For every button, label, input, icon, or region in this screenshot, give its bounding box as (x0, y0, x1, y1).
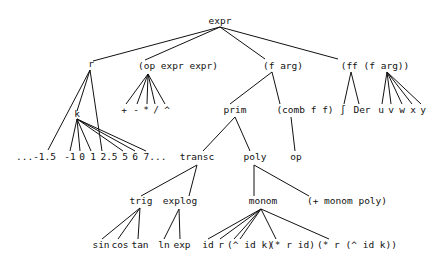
node-cos: cos (111, 239, 128, 250)
node-monom: monom (249, 195, 278, 206)
node-times: * (143, 104, 149, 115)
node-plus: + (121, 104, 127, 115)
edge (77, 119, 135, 151)
edge (387, 72, 421, 104)
node-der: Der (353, 104, 370, 115)
edge (234, 209, 261, 239)
node-prim: prim (224, 104, 247, 115)
node-r: r (88, 58, 94, 69)
node-expr: expr (209, 15, 232, 26)
tree-edges (48, 27, 421, 239)
edge (147, 74, 148, 104)
node-tan: tan (131, 239, 148, 250)
node-divide: / (153, 104, 159, 115)
node-id: id (202, 239, 213, 250)
node-plus-monom-poly: (+ monom poly) (307, 195, 387, 206)
edge (272, 72, 280, 104)
edge (148, 74, 155, 104)
edge (220, 27, 265, 59)
edge (137, 74, 148, 104)
node-num-7: 7... (144, 151, 167, 162)
node-integral: ∫ (340, 104, 346, 115)
edge (261, 209, 276, 239)
edge (351, 72, 359, 104)
node-trig: trig (130, 195, 153, 206)
node-explog: explog (163, 195, 197, 206)
node-ln: ln (158, 239, 169, 250)
edge (141, 165, 197, 196)
edge (126, 74, 148, 104)
edge (208, 209, 261, 239)
node-comb-f-f: (comb f f) (276, 104, 333, 115)
node-y: y (420, 104, 426, 115)
node-sin: sin (92, 239, 109, 250)
node-num-5: 5 (122, 151, 128, 162)
edge (77, 119, 146, 151)
edge (48, 70, 90, 150)
node-x: x (410, 104, 416, 115)
node-w: w (399, 104, 405, 115)
edge (261, 209, 329, 239)
edge (179, 209, 180, 239)
node-poly: poly (244, 151, 267, 162)
grammar-tree-diagram: expr r (op expr expr) (f arg) (ff (f arg… (0, 0, 447, 264)
edge (138, 208, 140, 239)
edge (93, 27, 220, 61)
node-op: op (290, 151, 302, 162)
edge (240, 209, 261, 239)
edge (148, 74, 165, 104)
node-f-arg: (f arg) (263, 60, 303, 71)
node-num-6: 6 (132, 151, 138, 162)
node-power: ^ (164, 104, 170, 115)
node-ff-f-arg: (ff (f arg)) (341, 60, 410, 71)
node-k: k (74, 108, 80, 119)
node-transc: transc (180, 151, 214, 162)
edge (254, 165, 309, 196)
edge (220, 209, 261, 239)
edge (164, 209, 179, 239)
node-v: v (388, 104, 394, 115)
node-monom-r: r (218, 239, 224, 250)
edge (220, 27, 338, 59)
edge (291, 117, 295, 151)
node-minus: - (133, 104, 139, 115)
node-mul-r-id: (* r id) (269, 239, 315, 250)
edge (382, 72, 387, 104)
edge (230, 72, 272, 104)
edge (145, 27, 220, 60)
node-num-neg1: -1 (64, 151, 76, 162)
node-mul-r-pow: (* r (^ id k)) (317, 239, 397, 250)
edge (235, 117, 250, 151)
node-num-0: 0 (79, 151, 85, 162)
node-u: u (378, 104, 384, 115)
edge (90, 70, 102, 151)
node-op-expr-expr: (op expr expr) (138, 60, 218, 71)
node-num-2-5: 2.5 (100, 151, 117, 162)
edge (203, 117, 235, 151)
node-pow-id-k: (^ id k) (227, 239, 273, 250)
node-num-neg1-5: ...-1.5 (16, 151, 56, 162)
edge (70, 119, 77, 151)
node-num-1: 1 (90, 151, 96, 162)
node-exp: exp (173, 239, 190, 250)
edge (344, 72, 351, 104)
edge (189, 165, 197, 196)
